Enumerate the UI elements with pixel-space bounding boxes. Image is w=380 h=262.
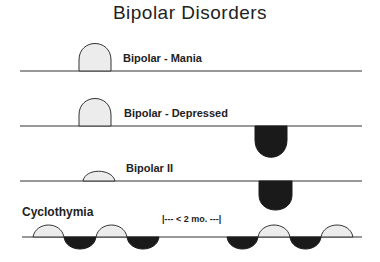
mild-depression-episode xyxy=(127,237,159,249)
hypomania-episode xyxy=(83,171,115,181)
row-label-bipolar2: Bipolar II xyxy=(126,162,173,174)
mania-episode xyxy=(79,99,111,127)
row-label-mania: Bipolar - Mania xyxy=(123,52,202,64)
mild-depression-episode xyxy=(290,237,321,249)
depressive-episode xyxy=(259,181,292,210)
mild-depression-episode xyxy=(64,237,96,249)
hypomania-episode xyxy=(33,225,64,237)
hypomania-episode xyxy=(321,225,353,237)
mild-depression-episode xyxy=(227,237,258,249)
depressive-episode xyxy=(255,126,287,157)
row-label-depressed: Bipolar - Depressed xyxy=(124,107,228,119)
hypomania-episode xyxy=(258,225,290,237)
hypomania-episode xyxy=(96,225,127,237)
duration-annotation: |--- < 2 mo. ---| xyxy=(162,214,221,224)
row-label-cyclothymia: Cyclothymia xyxy=(22,205,93,219)
mania-episode xyxy=(79,44,111,72)
